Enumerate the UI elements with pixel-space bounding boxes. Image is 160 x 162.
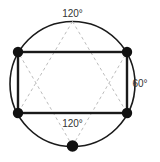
- top-right-vertex: [122, 47, 132, 57]
- angle-label-top: 120°: [62, 8, 83, 19]
- figure-container: 120°60°120°: [0, 0, 160, 162]
- angle-label-bottom: 120°: [62, 118, 83, 129]
- inscribed-rectangle: [18, 52, 127, 113]
- vertex-dot-group: [13, 47, 132, 152]
- angle-label-right: 60°: [132, 78, 147, 89]
- geometry-diagram: 120°60°120°: [0, 0, 160, 162]
- angle-label-group: 120°60°120°: [62, 8, 147, 129]
- bottom-left-vertex: [13, 108, 23, 118]
- top-left-vertex: [13, 47, 23, 57]
- bottom-right-vertex: [122, 108, 132, 118]
- bottom-center-vertex: [67, 140, 79, 152]
